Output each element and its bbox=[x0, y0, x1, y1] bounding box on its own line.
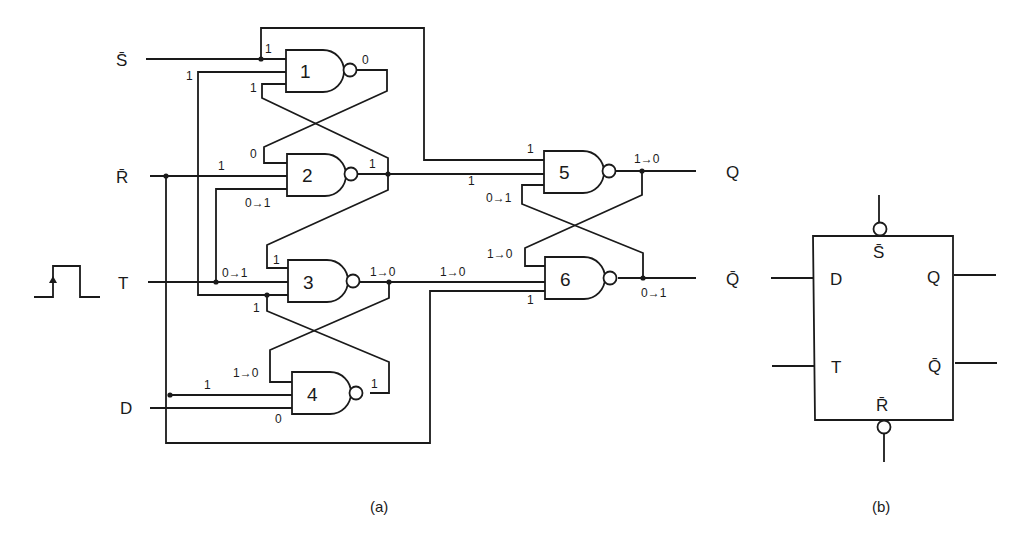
state-g3-in-top: 1 bbox=[273, 253, 280, 267]
inverter-bubble-icon bbox=[345, 168, 358, 181]
output-label-q: Q bbox=[726, 163, 739, 182]
junction-dot bbox=[213, 279, 218, 284]
gate-number: 5 bbox=[559, 162, 570, 183]
state-g6-out: 0→1 bbox=[641, 286, 667, 300]
gate-number: 6 bbox=[560, 269, 571, 290]
state-g5-in-bot: 0→1 bbox=[486, 191, 512, 205]
state-g4-out: 1 bbox=[371, 377, 378, 391]
wiring bbox=[146, 28, 696, 443]
inverter-bubble-icon bbox=[344, 64, 357, 77]
state-g1-in-bot: 1 bbox=[250, 81, 257, 95]
pin-label-q: Q bbox=[927, 268, 940, 287]
inverter-bubble-icon bbox=[604, 272, 617, 285]
state-g1-out: 0 bbox=[362, 53, 369, 67]
state-g3-out: 1→0 bbox=[370, 265, 396, 279]
state-g3-in-mid: 0→1 bbox=[222, 266, 248, 280]
gate-number: 2 bbox=[302, 165, 313, 186]
nand-gate-2: 2 bbox=[287, 154, 358, 196]
block-outline bbox=[813, 236, 953, 420]
state-g2-out: 1 bbox=[369, 157, 376, 171]
pin-label-d: D bbox=[830, 270, 842, 289]
input-label-r-bar: R̄ bbox=[116, 168, 128, 187]
inverter-bubble-icon bbox=[603, 165, 616, 178]
pin-label-q-bar: Q̄ bbox=[928, 357, 941, 376]
inverter-bubble-icon bbox=[878, 421, 891, 434]
caption-b: (b) bbox=[872, 498, 890, 515]
state-g6-in-mid: 1→0 bbox=[440, 265, 466, 279]
state-g4-in-bot: 0 bbox=[275, 412, 282, 426]
inverter-bubble-icon bbox=[347, 275, 360, 288]
nand-gate-6: 6 bbox=[545, 257, 617, 299]
junction-dot bbox=[258, 56, 263, 61]
clock-pulse-icon bbox=[34, 266, 100, 297]
nand-gate-4: 4 bbox=[292, 372, 363, 414]
pin-label-t: T bbox=[831, 358, 841, 377]
nand-gate-5: 5 bbox=[544, 151, 616, 193]
state-g6-in-top: 1→0 bbox=[487, 247, 513, 261]
state-g2-in-mid: 1 bbox=[218, 159, 225, 173]
gate-number: 4 bbox=[307, 384, 318, 405]
caption-a: (a) bbox=[370, 498, 388, 515]
state-g1-in-top: 1 bbox=[265, 42, 272, 56]
flip-flop-diagram: 1 2 3 4 5 6 S̄ R̄ T D Q Q̄ 1 1 bbox=[0, 0, 1023, 545]
inverter-bubble-icon bbox=[874, 223, 887, 236]
nand-gate-1: 1 bbox=[286, 50, 357, 92]
input-label-d: D bbox=[120, 399, 132, 418]
state-g4-in-mid: 1 bbox=[204, 378, 211, 392]
inverter-bubble-icon bbox=[350, 387, 363, 400]
state-g2-in-bot: 0→1 bbox=[245, 196, 271, 210]
wire-s-bar-to-gate5 bbox=[261, 28, 544, 160]
state-g5-in-mid: 1 bbox=[468, 174, 475, 188]
gate-number: 3 bbox=[303, 272, 314, 293]
pin-label-r-bar: R̄ bbox=[876, 396, 888, 415]
state-g4-in-top: 1→0 bbox=[233, 366, 259, 380]
pin-label-s-bar: S̄ bbox=[873, 243, 884, 262]
gate-number: 1 bbox=[300, 61, 311, 82]
wire-r-bar-to-gate6 bbox=[166, 176, 545, 443]
junction-dot bbox=[167, 392, 172, 397]
flip-flop-block-symbol: S̄ R̄ D T Q Q̄ bbox=[771, 195, 997, 462]
input-label-t: T bbox=[118, 274, 128, 293]
output-label-q-bar: Q̄ bbox=[726, 270, 739, 289]
state-g1-in-mid: 1 bbox=[186, 69, 193, 83]
state-g3-in-bot: 1 bbox=[253, 301, 260, 315]
state-g5-in-top: 1 bbox=[527, 142, 534, 156]
nand-gate-3: 3 bbox=[288, 260, 360, 302]
state-g2-in-top: 0 bbox=[250, 147, 257, 161]
input-label-s-bar: S̄ bbox=[116, 51, 127, 70]
state-g5-out: 1→0 bbox=[634, 152, 660, 166]
state-g6-in-bot: 1 bbox=[527, 293, 534, 307]
